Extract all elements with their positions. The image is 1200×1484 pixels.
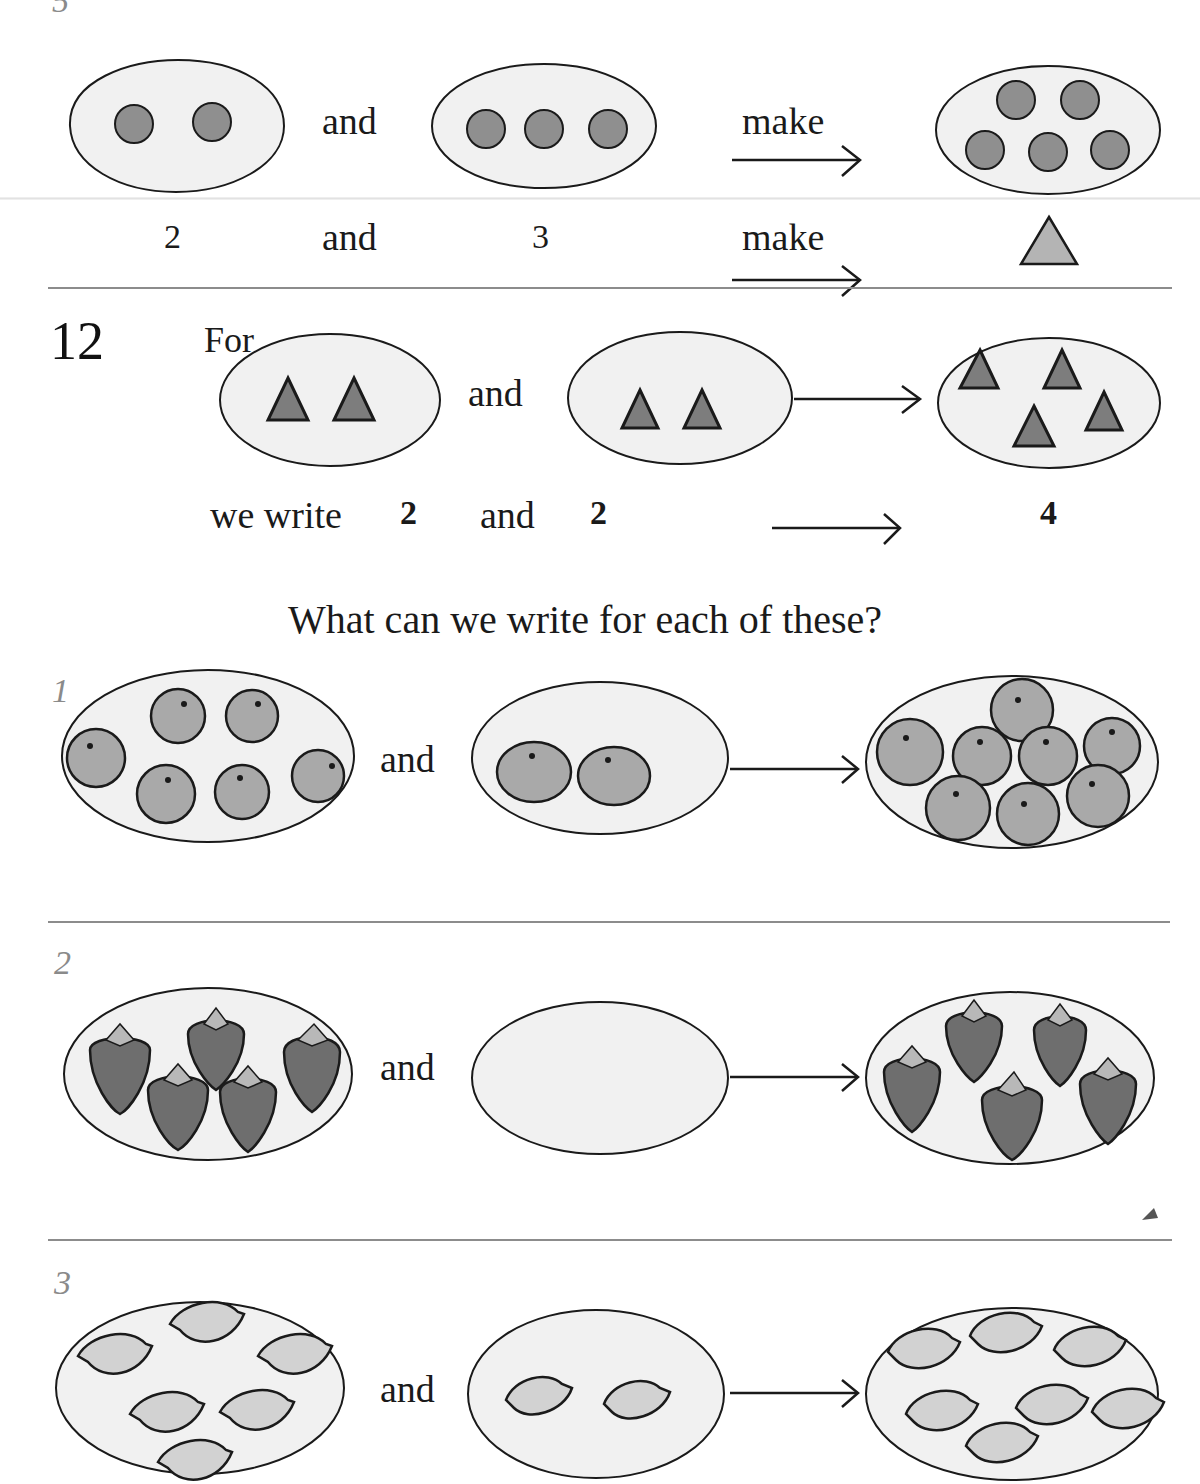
joiner-and: and [480,496,535,534]
triangle-answer-box-icon [1018,214,1082,268]
joiner-and: and [380,740,435,778]
joiner-and: and [380,1048,435,1086]
joiner-and: and [322,102,377,140]
oval-six-oranges [60,668,360,848]
written-left: 2 [400,496,417,530]
oval-eight-oranges [864,674,1164,854]
verb-make: make [742,102,824,140]
joiner-and: and [322,218,377,256]
arrow-right-icon [730,264,870,300]
oval-two-dots [60,58,288,194]
oval-empty [470,1000,734,1160]
we-write-label: we write [210,496,342,534]
section-divider [48,921,1170,923]
exercise-label-5: 5 [52,0,69,20]
written-result: 4 [1040,496,1057,530]
oval-six-lemons [54,1300,350,1480]
oval-four-triangles [936,336,1164,472]
oval-two-triangles [218,332,446,468]
arrow-right-icon [730,754,866,786]
ink-smudge [1140,1206,1162,1224]
section-divider [48,287,1172,289]
oval-eight-lemons [864,1304,1160,1484]
number-left: 2 [164,220,181,254]
arrow-right-icon [794,384,930,416]
exercise-label-3: 3 [54,1264,71,1302]
oval-five-strawberries [864,990,1160,1166]
oval-five-strawberries [62,986,358,1162]
number-middle: 3 [532,220,549,254]
verb-make: make [742,218,824,256]
arrow-right-icon [730,1378,866,1410]
oval-five-dots [934,64,1164,198]
oval-two-oranges [470,680,734,840]
joiner-and: and [468,374,523,412]
exercise-label-2: 2 [54,944,71,982]
joiner-and: and [380,1370,435,1408]
written-middle: 2 [590,496,607,530]
oval-three-dots [430,62,660,192]
oval-two-lemons [466,1308,730,1478]
oval-two-triangles [566,330,796,466]
arrow-right-icon [730,144,870,180]
section-number-12: 12 [50,310,104,372]
prompt-heading: What can we write for each of these? [288,600,882,640]
section-divider [48,1239,1172,1241]
page-crease [0,197,1200,200]
arrow-right-icon [730,1062,866,1094]
arrow-right-icon [770,512,910,548]
